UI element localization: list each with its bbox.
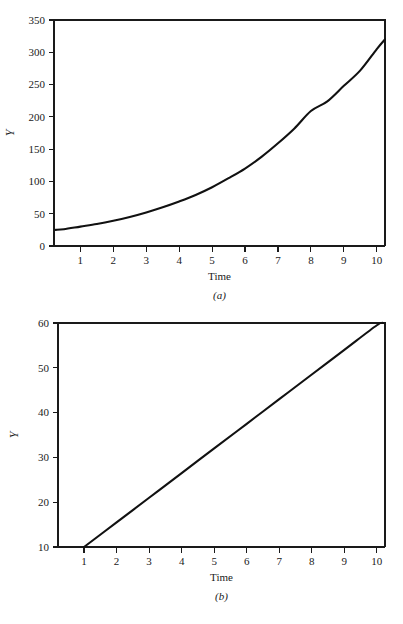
figure-page: 05010015020025030035012345678910TimeY(a)… bbox=[0, 0, 403, 624]
x-tick-label: 3 bbox=[146, 555, 152, 567]
y-tick-label: 350 bbox=[29, 14, 46, 26]
chart-panel-a: 05010015020025030035012345678910TimeY(a) bbox=[0, 0, 403, 312]
data-series-line bbox=[56, 39, 385, 229]
x-tick-label: 4 bbox=[179, 555, 185, 567]
x-tick-label: 6 bbox=[244, 555, 250, 567]
x-tick-label: 5 bbox=[209, 254, 215, 266]
x-tick-label: 6 bbox=[242, 254, 248, 266]
x-tick-label: 7 bbox=[277, 555, 283, 567]
x-tick-label: 1 bbox=[81, 555, 87, 567]
x-tick-label: 8 bbox=[309, 555, 315, 567]
y-tick-label: 100 bbox=[29, 175, 46, 187]
y-tick-label: 20 bbox=[38, 496, 50, 508]
x-tick-label: 2 bbox=[111, 254, 117, 266]
y-tick-label: 300 bbox=[29, 46, 46, 58]
x-tick-label: 1 bbox=[78, 254, 84, 266]
x-tick-label: 4 bbox=[176, 254, 182, 266]
plot-frame bbox=[54, 20, 385, 246]
y-tick-label: 250 bbox=[29, 78, 46, 90]
x-tick-label: 9 bbox=[342, 555, 348, 567]
chart-a-svg: 05010015020025030035012345678910TimeY(a) bbox=[0, 0, 403, 312]
panel-caption: (b) bbox=[215, 590, 228, 603]
x-tick-label: 9 bbox=[341, 254, 347, 266]
y-tick-label: 10 bbox=[38, 541, 50, 553]
panel-caption: (a) bbox=[213, 289, 226, 302]
y-tick-label: 60 bbox=[38, 317, 50, 329]
y-axis-title: Y bbox=[3, 128, 17, 136]
x-tick-label: 3 bbox=[143, 254, 149, 266]
x-tick-label: 5 bbox=[211, 555, 217, 567]
y-axis-title: Y bbox=[7, 430, 21, 438]
x-axis-title: Time bbox=[210, 571, 233, 583]
x-tick-label: 2 bbox=[114, 555, 120, 567]
y-tick-label: 50 bbox=[34, 208, 46, 220]
x-tick-label: 8 bbox=[308, 254, 314, 266]
chart-b-svg: 10203040506012345678910TimeY(b) bbox=[0, 312, 403, 624]
y-tick-label: 150 bbox=[29, 143, 46, 155]
x-tick-label: 10 bbox=[371, 555, 383, 567]
x-tick-label: 10 bbox=[371, 254, 383, 266]
x-tick-label: 7 bbox=[275, 254, 281, 266]
chart-panel-b: 10203040506012345678910TimeY(b) bbox=[0, 312, 403, 624]
data-series-line bbox=[84, 323, 383, 547]
y-tick-label: 200 bbox=[29, 111, 46, 123]
x-axis-title: Time bbox=[208, 270, 231, 282]
y-tick-label: 0 bbox=[40, 240, 46, 252]
y-tick-label: 30 bbox=[38, 451, 50, 463]
y-tick-label: 50 bbox=[38, 362, 50, 374]
y-tick-label: 40 bbox=[38, 406, 50, 418]
